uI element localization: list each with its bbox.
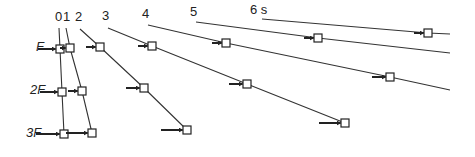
time-line-0 [59, 28, 64, 134]
block-square-icon [140, 84, 148, 92]
force-label: 2F [29, 82, 46, 97]
block-2F-t1 [68, 87, 86, 95]
block-F-t2 [86, 43, 104, 51]
force-label: 3F [26, 125, 42, 140]
time-label: 2 [75, 9, 82, 24]
block-3F-t3 [319, 119, 349, 127]
block-square-icon [183, 126, 191, 134]
block-square-icon [341, 119, 349, 127]
force-blocks [36, 29, 432, 138]
block-3F-t1 [66, 129, 96, 137]
block-3F-t2 [161, 126, 191, 134]
force-label: F [36, 39, 45, 54]
time-label: 1 [63, 9, 70, 24]
time-label: 3 [102, 8, 109, 23]
time-label: 4 [142, 6, 149, 21]
block-square-icon [88, 129, 96, 137]
diagram-canvas: 0123456 sF2F3F [0, 0, 475, 157]
force-time-diagram: 0123456 sF2F3F [0, 0, 475, 157]
block-square-icon [314, 34, 322, 42]
block-square-icon [58, 88, 66, 96]
block-F-t6 [414, 29, 432, 37]
time-line-6 [262, 19, 450, 34]
labels: 0123456 sF2F3F [26, 2, 268, 140]
block-2F-t2 [126, 84, 148, 92]
block-square-icon [148, 42, 156, 50]
block-square-icon [96, 43, 104, 51]
time-label: 0 [55, 9, 62, 24]
block-square-icon [66, 44, 74, 52]
block-square-icon [386, 73, 394, 81]
time-label: 5 [190, 4, 197, 19]
block-square-icon [78, 87, 86, 95]
time-line-4 [148, 25, 450, 90]
block-F-t5 [304, 34, 322, 42]
time-line-5 [196, 22, 450, 53]
block-square-icon [424, 29, 432, 37]
time-label: 6 s [250, 2, 268, 17]
block-F-t3 [138, 42, 156, 50]
block-square-icon [222, 39, 230, 47]
block-square-icon [243, 80, 251, 88]
